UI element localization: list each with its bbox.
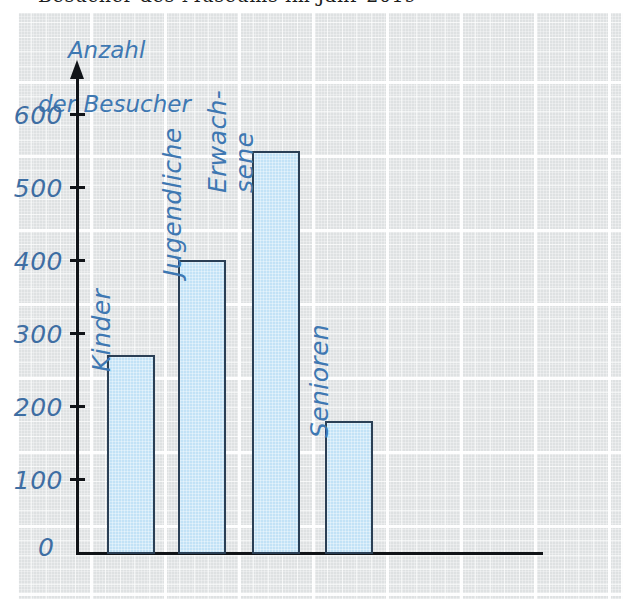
y-tick-300: 300 (70, 332, 85, 335)
y-tick-500: 500 (70, 186, 85, 189)
y-tick-mark (70, 332, 85, 335)
y-axis-line (76, 76, 79, 555)
y-tick-mark (70, 259, 85, 262)
y-tick-200: 200 (70, 405, 85, 408)
chart-page: Besucher des Museums im Jahr 2019 Anzahl… (0, 0, 623, 612)
category-label-kinder: Kinder (87, 289, 116, 372)
y-tick-label: 500 (14, 173, 63, 202)
y-tick-600: 600 (70, 113, 85, 116)
category-label-jugendliche: Jugendliche (158, 128, 187, 277)
bar-senioren[interactable] (325, 421, 373, 554)
y-tick-400: 400 (70, 259, 85, 262)
y-tick-100: 100 (70, 478, 85, 481)
y-axis-zero-label: 0 (38, 533, 54, 562)
y-tick-mark (70, 478, 85, 481)
category-label-erwachsene: Erwach- sene (204, 89, 258, 192)
bar-chart-plot: Anzahl der Besucher 600500400300200100 0… (0, 0, 605, 586)
bar-erwachsene[interactable] (252, 151, 300, 555)
y-tick-label: 400 (14, 246, 63, 275)
y-tick-label: 600 (14, 100, 63, 129)
y-tick-mark (70, 405, 85, 408)
y-tick-label: 300 (14, 319, 63, 348)
y-tick-mark (70, 113, 85, 116)
y-tick-label: 100 (14, 465, 63, 494)
bar-kinder[interactable] (107, 355, 155, 554)
bar-jugendliche[interactable] (178, 260, 226, 554)
category-label-senioren: Senioren (305, 324, 334, 438)
y-axis-arrow-icon (70, 60, 84, 79)
y-tick-mark (70, 186, 85, 189)
y-tick-label: 200 (14, 392, 63, 421)
